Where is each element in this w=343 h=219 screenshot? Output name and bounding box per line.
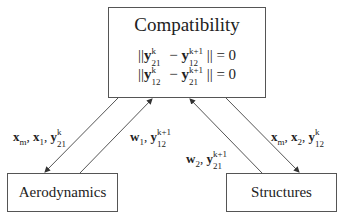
equation-2: ||yk12 − yk+121 || = 0 <box>109 65 265 86</box>
edge-label-struct-to-compat: w2, yk+121 <box>186 150 227 170</box>
equation-1: ||yk21 − yk+112 || = 0 <box>109 46 265 67</box>
edge-label-compat-to-struct: xm, x2, yk12 <box>271 128 329 148</box>
aerodynamics-title: Aerodynamics <box>8 184 117 201</box>
aerodynamics-box: Aerodynamics <box>7 173 118 212</box>
compatibility-title: Compatibility <box>109 14 265 36</box>
compatibility-box: Compatibility ||yk21 − yk+112 || = 0 ||y… <box>108 7 266 98</box>
structures-box: Structures <box>226 173 337 212</box>
edge-label-aero-to-compat: w1, yk+112 <box>130 128 171 148</box>
structures-title: Structures <box>227 184 336 201</box>
edge-label-compat-to-aero: xm, x1, yk21 <box>13 128 71 148</box>
